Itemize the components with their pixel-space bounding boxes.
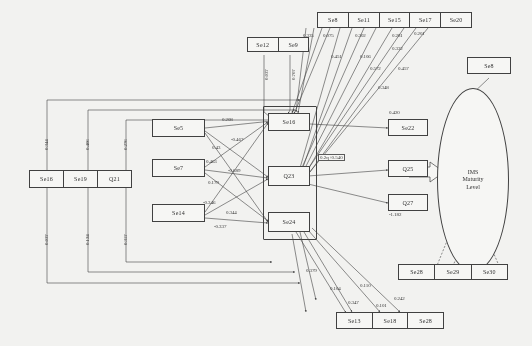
coef-top-11: 0.348 (378, 85, 389, 90)
node-se28-b[interactable]: Se28 (408, 313, 443, 328)
coef-top-8: 0.332 (392, 46, 403, 51)
coef-se14-a: -0.346 (203, 200, 215, 205)
node-se17[interactable]: Se17 (410, 13, 441, 27)
coef-top-10: 0.457 (398, 66, 409, 71)
node-se20[interactable]: Se20 (441, 13, 471, 27)
coef-top-1: 0.335 (303, 33, 314, 38)
coef-se7-a: 0.463 (206, 159, 217, 164)
coef-bot-4: 0.110 (360, 283, 371, 288)
coef-se9-v: 0.707 (291, 69, 296, 80)
node-se22[interactable]: Se22 (388, 119, 428, 136)
coef-se5-a: 0.43 (212, 145, 220, 150)
node-se16-center[interactable]: Se16 (268, 113, 310, 131)
coef-se12-v: 0.037 (264, 69, 269, 80)
node-se24[interactable]: Se24 (268, 212, 310, 232)
equation-label: 0.2q+0.540 (318, 154, 345, 161)
latent-line-3: Level (463, 184, 484, 192)
coef-bot-3: 0.347 (348, 300, 359, 305)
node-se16-left[interactable]: Se16 (30, 171, 64, 187)
node-se8-right[interactable]: Se8 (467, 57, 511, 74)
coef-se7-c: 0.179 (208, 180, 219, 185)
coef-bot-5: 0.101 (376, 303, 387, 308)
coef-top-6: 0.451 (331, 54, 342, 59)
group-top: Se8 Se11 Se15 Se17 Se20 (317, 12, 472, 28)
latent-line-2: Maturity (463, 176, 484, 184)
coef-left-v5: 0.124 (85, 234, 90, 245)
coef-left-v6: 0.357 (123, 234, 128, 245)
coef-top-7: 0.106 (360, 54, 371, 59)
sem-path-diagram: Se12 Se9 Se8 Se11 Se15 Se17 Se20 Se8 Se1… (0, 0, 532, 346)
node-se9[interactable]: Se9 (279, 38, 309, 51)
node-q21[interactable]: Q21 (98, 171, 131, 187)
node-se15[interactable]: Se15 (380, 13, 411, 27)
group-bottom-right: Se28 Se29 Se30 (398, 264, 508, 280)
node-se12[interactable]: Se12 (248, 38, 279, 51)
node-se18[interactable]: Se18 (373, 313, 409, 328)
coef-bot-6: 0.242 (394, 296, 405, 301)
coef-top-5: 0.201 (414, 31, 425, 36)
node-q27[interactable]: Q27 (388, 194, 428, 211)
node-se19[interactable]: Se19 (64, 171, 98, 187)
coef-top-2: 0.075 (323, 33, 334, 38)
coef-top-9: 0.572 (370, 66, 381, 71)
coef-left-v2: 0.406 (85, 139, 90, 150)
node-se28-br[interactable]: Se28 (399, 265, 435, 279)
coef-left-v4: 0.037 (44, 234, 49, 245)
coef-left-v3: 0.276 (123, 139, 128, 150)
coef-se5-se16: 0.208 (222, 117, 233, 122)
coef-se7-b: -0.689 (228, 168, 240, 173)
node-se13[interactable]: Se13 (337, 313, 373, 328)
node-se14[interactable]: Se14 (152, 204, 205, 222)
coef-top-3: 0.302 (355, 33, 366, 38)
node-se30[interactable]: Se30 (472, 265, 507, 279)
coef-se5-b: -0.467 (231, 137, 243, 142)
coef-top-4: 0.281 (392, 33, 403, 38)
latent-line-1: IMS (463, 169, 484, 177)
node-se11[interactable]: Se11 (349, 13, 380, 27)
node-se8-top[interactable]: Se8 (318, 13, 349, 27)
latent-ims-maturity-level[interactable]: IMS Maturity Level (437, 88, 509, 272)
coef-se14-c: -0.337 (214, 224, 226, 229)
coef-left-v1: 0.344 (44, 139, 49, 150)
node-se29[interactable]: Se29 (435, 265, 471, 279)
node-q25[interactable]: Q25 (388, 160, 428, 177)
node-q23[interactable]: Q23 (268, 166, 310, 186)
coef-q27-in: -1.182 (389, 212, 401, 217)
group-bottom: Se13 Se18 Se28 (336, 312, 444, 329)
node-se7[interactable]: Se7 (152, 159, 205, 177)
coef-bot-2: 0.104 (330, 286, 341, 291)
group-top-left: Se12 Se9 (247, 37, 309, 52)
coef-bot-1: 0.379 (306, 268, 317, 273)
group-left: Se16 Se19 Q21 (29, 170, 132, 188)
coef-se22-in: 0.420 (389, 110, 400, 115)
node-se5[interactable]: Se5 (152, 119, 205, 137)
coef-se14-b: 0.344 (226, 210, 237, 215)
